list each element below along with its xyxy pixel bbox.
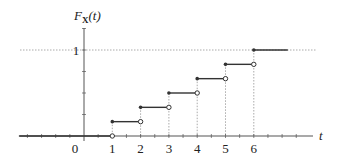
x-tick-label: 4 [194, 141, 201, 156]
closed-dot [167, 91, 171, 95]
closed-dot [111, 120, 115, 124]
closed-dot [139, 106, 143, 110]
open-dot [252, 62, 256, 66]
x-axis-title: t [319, 128, 323, 143]
closed-dot [195, 77, 199, 81]
open-dot [167, 105, 171, 109]
x-tick-label: 1 [109, 141, 116, 156]
x-tick-label: 0 [72, 141, 79, 156]
open-dot [110, 134, 114, 138]
y-tick-label: 1 [73, 43, 80, 58]
axes [20, 28, 313, 141]
open-dot [223, 76, 227, 80]
y-axis-title: FX(t) [73, 8, 101, 25]
x-tick-label: 2 [137, 141, 144, 156]
plot-area: 01234561tFX(t) [0, 0, 337, 161]
x-tick-label: 3 [166, 141, 173, 156]
cdf-step-chart: 01234561tFX(t) [0, 0, 337, 161]
open-dot [138, 119, 142, 123]
x-tick-label: 5 [222, 141, 229, 156]
closed-dot [252, 48, 256, 52]
step-segments [19, 48, 288, 138]
open-dot [195, 91, 199, 95]
closed-dot [224, 63, 228, 67]
x-tick-label: 6 [251, 141, 258, 156]
